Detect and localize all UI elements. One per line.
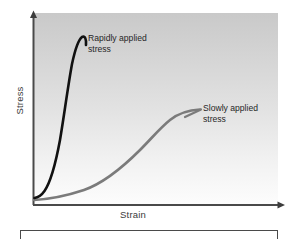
annotation-rapid-line2: stress [88,44,147,55]
annotation-rapidly-applied-stress: Rapidly applied stress [88,33,147,54]
annotation-rapid-line1: Rapidly applied [88,33,147,43]
caption-frame [20,230,278,239]
annotation-slow-line1: Slowly applied [203,103,258,113]
annotation-slowly-applied-stress: Slowly applied stress [203,103,258,124]
stress-strain-figure: Stress Strain Rapidly applied stress Slo… [0,0,296,239]
x-axis-label: Strain [120,209,146,220]
slow-curve [34,110,200,201]
annotation-slow-line2: stress [203,114,258,125]
rapid-curve [35,37,87,198]
y-axis-label: Stress [14,71,25,131]
